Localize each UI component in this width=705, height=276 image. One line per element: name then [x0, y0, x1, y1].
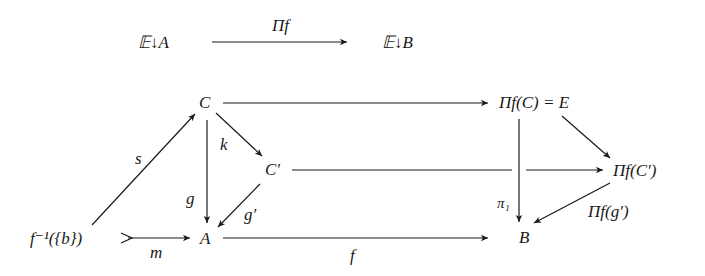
label-g-prime: g′: [244, 206, 256, 223]
node-C: C: [199, 94, 210, 111]
label-Pi-g-prime: Πf(g′): [588, 203, 629, 220]
arrow-PiC-to-PiCp: [562, 116, 610, 158]
category-e-over-b: 𝔼↓B: [382, 34, 413, 51]
arrow-s: [92, 114, 195, 225]
label-s: s: [135, 150, 142, 167]
node-Pi-C-equals-E: Πf(C) = E: [499, 94, 569, 111]
node-Pi-C-prime: Πf(C′): [613, 162, 656, 179]
node-B: B: [519, 229, 529, 246]
diagram-arrows: [0, 0, 705, 276]
label-pi1: π₁: [497, 196, 510, 211]
label-g: g: [186, 190, 195, 207]
label-k: k: [220, 136, 228, 153]
node-fiber: f⁻¹({b}): [30, 230, 82, 247]
functor-label: Πf: [272, 17, 289, 34]
node-A: A: [200, 230, 210, 247]
label-f: f: [350, 247, 355, 264]
node-C-prime: C′: [265, 161, 280, 178]
label-m: m: [150, 244, 162, 261]
category-e-over-a: 𝔼↓A: [138, 34, 169, 51]
